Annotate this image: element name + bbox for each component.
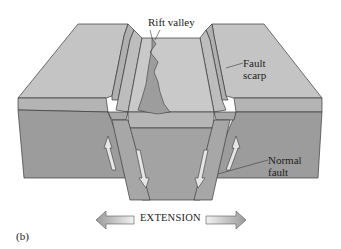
panel-label: (b) — [16, 230, 29, 242]
extension-label: EXTENSION — [140, 212, 201, 224]
fault-scarp-label-line1: Fault — [243, 57, 266, 69]
normal-fault-label: Normal fault — [268, 154, 302, 178]
normal-fault-label-line1: Normal — [268, 154, 302, 166]
fault-scarp-label: Fault scarp — [243, 57, 266, 81]
rift-valley-label: Rift valley — [148, 16, 195, 28]
fault-scarp-label-line2: scarp — [243, 69, 266, 81]
arrow-left-icon — [96, 211, 134, 229]
arrow-right-icon — [206, 211, 246, 229]
normal-fault-label-line2: fault — [268, 166, 302, 178]
